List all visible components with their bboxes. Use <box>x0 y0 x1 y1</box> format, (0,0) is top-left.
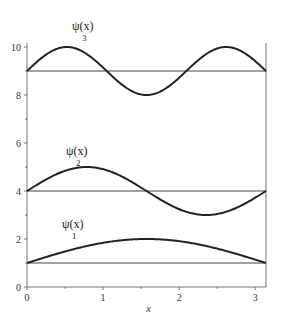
series-label-subscript: 1 <box>72 231 77 241</box>
x-axis-label: x <box>145 302 151 314</box>
x-tick-label: 0 <box>25 292 30 303</box>
y-tick-label: 2 <box>16 234 21 245</box>
series-label-psi-1: ψ(x) <box>62 217 84 231</box>
x-tick-label: 1 <box>101 292 106 303</box>
series-label-subscript: 3 <box>82 33 87 43</box>
wavefunction-chart: 02468100123xψ(x)1ψ(x)2ψ(x)3 <box>0 0 281 333</box>
y-tick-label: 0 <box>16 282 21 293</box>
y-tick-label: 4 <box>16 186 21 197</box>
series-label-psi-2: ψ(x) <box>66 144 88 158</box>
x-tick-label: 2 <box>177 292 182 303</box>
series-label-psi-3: ψ(x) <box>72 19 94 33</box>
y-tick-label: 8 <box>16 90 21 101</box>
curve-psi-1 <box>27 239 266 263</box>
series-label-subscript: 2 <box>76 158 81 168</box>
x-tick-label: 3 <box>253 292 258 303</box>
y-tick-label: 6 <box>16 138 21 149</box>
y-tick-label: 10 <box>11 42 21 53</box>
